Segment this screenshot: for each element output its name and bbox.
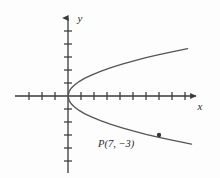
coordinate-plot: x y P(7, −3) (0, 0, 220, 178)
x-axis-label: x (197, 100, 203, 112)
point-marker (157, 133, 161, 137)
parabola-upper-branch (68, 49, 188, 96)
parabola-figure: x y P(7, −3) (0, 0, 220, 178)
y-axis-label: y (77, 12, 83, 24)
parabola-lower-branch (68, 96, 192, 144)
point-label: P(7, −3) (97, 138, 135, 150)
